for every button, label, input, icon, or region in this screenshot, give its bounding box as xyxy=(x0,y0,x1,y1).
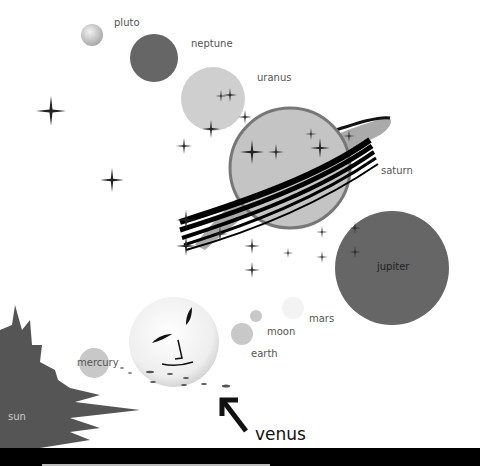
earth-planet xyxy=(231,323,253,345)
sun-label: sun xyxy=(8,411,26,422)
moon-body xyxy=(250,310,262,322)
sun-body xyxy=(0,305,140,448)
mercury-label: mercury xyxy=(77,357,119,368)
earth-label: earth xyxy=(251,348,278,359)
pluto-label: pluto xyxy=(114,17,140,28)
venus-label: venus xyxy=(255,424,306,444)
mars-planet xyxy=(282,297,304,319)
venus-planet xyxy=(129,297,219,387)
uranus-planet xyxy=(181,67,245,131)
venus-arrow-icon xyxy=(222,400,246,431)
uranus-label: uranus xyxy=(257,72,291,83)
mars-label: mars xyxy=(309,313,334,324)
jupiter-label: jupiter xyxy=(377,261,409,272)
neptune-planet xyxy=(130,34,178,82)
solar-system-illustration xyxy=(0,0,480,466)
neptune-label: neptune xyxy=(191,38,233,49)
moon-label: moon xyxy=(267,326,295,337)
pluto-planet xyxy=(81,24,103,46)
saturn-label: saturn xyxy=(381,165,413,176)
